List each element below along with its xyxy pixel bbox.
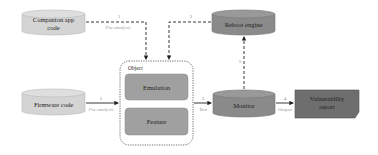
vulnerability-report-label-2: report (319, 103, 335, 110)
svg-text:Pre-analysis: Pre-analysis (87, 107, 113, 112)
svg-text:3: 3 (202, 96, 205, 101)
svg-text:Pre-analysis: Pre-analysis (104, 25, 130, 30)
edge-companion-to-object: 1 Pre-analysis (86, 14, 146, 59)
architecture-diagram: Companion app code Reboot engine Object … (0, 0, 378, 155)
firmware-code-node: Firmware code (22, 89, 85, 115)
monitor-node: Monitor (213, 90, 275, 117)
svg-text:Test: Test (199, 107, 207, 112)
svg-text:1: 1 (100, 96, 103, 101)
vulnerability-report-node: Vulnerability report (295, 90, 359, 118)
companion-app-code-node: Companion app code (22, 10, 85, 35)
feature-node: Feature (125, 108, 188, 135)
svg-text:Output: Output (278, 107, 293, 112)
object-label: Object (128, 65, 143, 71)
svg-text:5: 5 (239, 59, 242, 64)
reboot-engine-label: Reboot engine (225, 21, 263, 28)
emulation-node: Emulation (125, 74, 188, 100)
svg-text:4: 4 (284, 96, 287, 101)
svg-text:1: 1 (118, 14, 121, 19)
vulnerability-report-label-1: Vulnerability (310, 95, 345, 102)
edge-firmware-to-object: 1 Pre-analysis (86, 96, 118, 112)
edge-monitor-to-reboot: 5 (239, 37, 244, 89)
emulation-label: Emulation (143, 84, 171, 91)
edge-reboot-to-object: 2 (169, 14, 211, 59)
feature-label: Feature (147, 118, 167, 125)
edge-monitor-to-report: 4 Output (276, 96, 293, 112)
firmware-code-label: Firmware code (34, 101, 73, 108)
companion-app-code-label-2: code (47, 24, 59, 31)
monitor-label: Monitor (233, 102, 255, 109)
edge-object-to-monitor: 3 Test (194, 96, 211, 112)
svg-text:2: 2 (190, 14, 193, 19)
companion-app-code-label-1: Companion app (33, 16, 74, 23)
reboot-engine-node: Reboot engine (212, 10, 275, 35)
